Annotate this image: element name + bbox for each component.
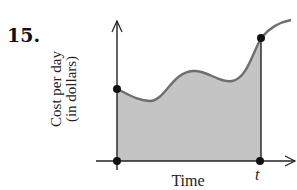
- y-axis-label-line1: Cost per day: [49, 51, 64, 127]
- x-axis-label: Time: [171, 172, 204, 190]
- point-curve-at-t: [257, 34, 265, 42]
- y-axis-label-line2: (in dollars): [64, 51, 79, 127]
- point-t-on-axis: [256, 157, 264, 165]
- t-marker-label: t: [255, 166, 259, 184]
- point-origin: [113, 157, 121, 165]
- y-axis-label: Cost per day (in dollars): [49, 51, 79, 127]
- point-y-intercept: [113, 85, 121, 93]
- cost-graph: [0, 0, 297, 190]
